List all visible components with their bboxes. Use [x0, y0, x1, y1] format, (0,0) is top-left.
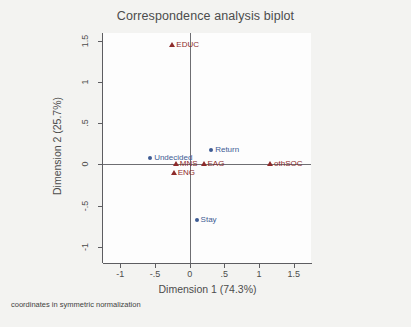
y-tick-mark: [98, 247, 102, 248]
chart-footnote: coordinates in symmetric normalization: [11, 300, 141, 309]
y-tick-label: 0: [80, 151, 90, 177]
data-point-label: ENG: [178, 168, 195, 177]
circle-marker-icon: [195, 218, 199, 222]
triangle-marker-icon: [173, 161, 179, 166]
y-tick-label: 1: [80, 69, 90, 95]
data-point-label: othSOC: [274, 159, 302, 168]
y-tick-mark: [98, 123, 102, 124]
data-point-label: EDUC: [176, 40, 199, 49]
y-axis-title: Dimension 2 (25.7%): [51, 46, 63, 246]
triangle-marker-icon: [201, 161, 207, 166]
y-axis-spine: [102, 33, 103, 263]
chart-title: Correspondence analysis biplot: [0, 9, 411, 23]
x-tick-label: -1: [105, 269, 135, 279]
x-tick-label: 1.5: [279, 269, 309, 279]
reference-line-vertical: [190, 33, 191, 263]
x-tick-mark: [224, 264, 225, 268]
x-tick-label: 1: [244, 269, 274, 279]
triangle-marker-icon: [169, 42, 175, 47]
y-tick-mark: [98, 206, 102, 207]
x-tick-label: .5: [209, 269, 239, 279]
y-tick-label: -.5: [80, 193, 90, 219]
circle-marker-icon: [209, 148, 213, 152]
x-tick-mark: [294, 264, 295, 268]
y-tick-label: 1.5: [80, 28, 90, 54]
x-tick-mark: [259, 264, 260, 268]
x-axis-title: Dimension 1 (74.3%): [103, 283, 312, 295]
data-point-label: EAG: [208, 159, 225, 168]
x-tick-label: 0: [175, 269, 205, 279]
data-point-label: Stay: [201, 215, 217, 224]
triangle-marker-icon: [171, 170, 177, 175]
chart-figure: Correspondence analysis biplot Undecided…: [0, 0, 411, 327]
triangle-marker-icon: [267, 161, 273, 166]
y-tick-label: -1: [80, 234, 90, 260]
y-tick-label: .5: [80, 110, 90, 136]
y-tick-mark: [98, 82, 102, 83]
x-tick-mark: [190, 264, 191, 268]
data-point-label: Return: [215, 145, 239, 154]
plot-area: UndecidedReturnStayEDUCMNSEAGothSOCENG: [103, 33, 311, 263]
x-tick-mark: [155, 264, 156, 268]
x-tick-label: -.5: [140, 269, 170, 279]
y-tick-mark: [98, 41, 102, 42]
circle-marker-icon: [148, 156, 152, 160]
x-tick-mark: [120, 264, 121, 268]
y-tick-mark: [98, 164, 102, 165]
x-axis-spine: [103, 263, 312, 264]
